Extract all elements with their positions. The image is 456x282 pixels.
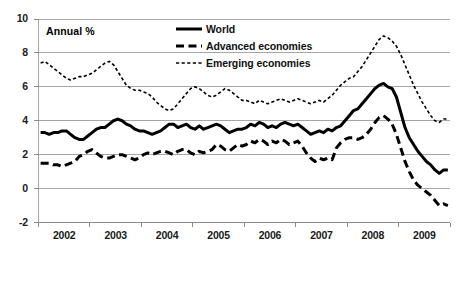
x-tick-label: 2005 (197, 229, 241, 241)
x-tick-label: 2004 (145, 229, 189, 241)
legend-label: Emerging economies (206, 57, 310, 69)
legend-line-swatch-dotted-icon (176, 57, 202, 69)
chart-legend: WorldAdvanced economiesEmerging economie… (176, 20, 312, 71)
x-tick-label: 2008 (351, 229, 395, 241)
y-tick-label: 10 (2, 12, 28, 24)
y-tick-label: 0 (2, 182, 28, 194)
chart-container: 1086420-2 200220032004200520062007200820… (0, 0, 456, 282)
y-tick-label: 6 (2, 80, 28, 92)
legend-label: World (206, 23, 235, 35)
y-tick-label: -2 (2, 216, 28, 228)
x-tick-marks (39, 223, 451, 228)
x-tick-label: 2007 (299, 229, 343, 241)
x-tick-label: 2009 (402, 229, 446, 241)
y-tick-label: 4 (2, 114, 28, 126)
x-tick-label: 2002 (42, 229, 86, 241)
legend-item-emerging-economies[interactable]: Emerging economies (176, 54, 312, 71)
annual-percent-label: Annual % (46, 25, 95, 37)
series-line-world (41, 83, 448, 173)
y-tick-label: 8 (2, 46, 28, 58)
legend-label: Advanced economies (206, 40, 312, 52)
legend-item-advanced-economies[interactable]: Advanced economies (176, 37, 312, 54)
y-tick-label: 2 (2, 148, 28, 160)
legend-item-world[interactable]: World (176, 20, 312, 37)
legend-line-swatch-dashed-icon (176, 40, 202, 52)
x-tick-label: 2006 (248, 229, 292, 241)
legend-line-swatch-solid-icon (176, 23, 202, 35)
x-tick-label: 2003 (94, 229, 138, 241)
